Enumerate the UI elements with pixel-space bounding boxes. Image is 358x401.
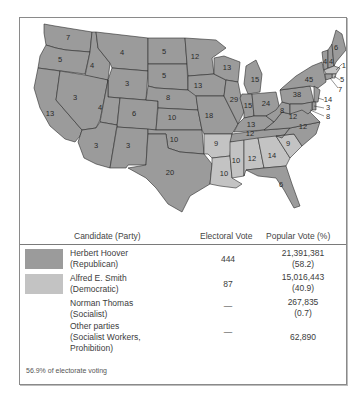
popular-percent: (58.2) (260, 259, 346, 270)
state-co (117, 98, 158, 130)
label-pa: 38 (293, 90, 301, 99)
label-ne: 8 (166, 93, 170, 102)
turnout-footnote: 56.9% of electorate voting (26, 367, 107, 374)
label-ut: 4 (98, 103, 102, 112)
label-ri: 5 (340, 75, 344, 84)
results-legend: Candidate (Party) Electoral Vote Popular… (20, 227, 346, 357)
popular-vote: 21,391,381 (260, 248, 346, 259)
label-ky: 13 (247, 120, 255, 129)
state-sd (148, 64, 188, 90)
label-or: 5 (58, 55, 62, 64)
label-al: 12 (248, 154, 256, 163)
label-mi: 15 (251, 75, 259, 84)
label-wa: 7 (66, 33, 70, 42)
democratic-swatch (25, 274, 63, 294)
label-tx: 20 (166, 168, 174, 177)
legend-row-thomas: Norman Thomas (Socialist) — 267,835 (0.7… (20, 297, 346, 321)
label-oh: 24 (262, 99, 270, 108)
label-ct: 7 (338, 85, 342, 94)
candidate-name: Alfred E. Smith (70, 273, 127, 284)
state-ny (280, 62, 326, 90)
candidate-name: Herbert Hoover (70, 248, 128, 259)
label-id: 4 (90, 61, 94, 70)
header-electoral: Electoral Vote (200, 231, 252, 241)
popular-vote: 267,835 (260, 297, 346, 308)
popular-percent: (0.7) (260, 308, 346, 319)
label-ia: 13 (194, 81, 202, 90)
state-nd (148, 38, 187, 64)
candidate-party-cont: Prohibition) (70, 343, 141, 354)
label-nh: 4 (329, 57, 333, 66)
label-nc: 12 (299, 122, 307, 131)
label-az: 3 (94, 141, 98, 150)
label-il: 29 (230, 95, 238, 104)
popular-vote: 15,016,443 (260, 272, 346, 283)
label-ca: 13 (46, 109, 54, 118)
candidate-party: (Republican) (70, 259, 128, 270)
electoral-vote: — (198, 301, 258, 312)
republican-swatch (25, 249, 63, 269)
us-electoral-map: 7 5 13 4 3 4 3 4 6 3 3 5 5 8 10 10 20 12… (20, 18, 346, 218)
header-popular: Popular Vote (%) (266, 231, 330, 241)
label-nd: 5 (162, 47, 166, 56)
candidate-name: Norman Thomas (70, 298, 133, 309)
label-tn: 12 (246, 129, 254, 138)
legend-row-smith: Alfred E. Smith (Democratic) 87 15,016,4… (20, 272, 346, 297)
label-wi: 13 (223, 63, 231, 72)
electoral-vote: — (198, 327, 258, 338)
popular-percent: (40.9) (260, 283, 346, 294)
label-nv: 3 (73, 93, 77, 102)
label-me: 6 (334, 43, 338, 52)
label-la: 10 (220, 169, 228, 178)
label-mt: 4 (120, 48, 124, 57)
legend-header: Candidate (Party) Electoral Vote Popular… (20, 227, 346, 245)
candidate-party: (Democratic) (70, 284, 127, 295)
state-ks (156, 108, 202, 130)
label-sd: 5 (162, 71, 166, 80)
label-de: 3 (326, 103, 330, 112)
label-fl: 6 (279, 180, 283, 189)
label-wv: 8 (280, 106, 284, 115)
electoral-vote: 444 (198, 254, 258, 265)
label-mo: 18 (205, 111, 213, 120)
label-ks: 10 (168, 113, 176, 122)
label-md: 8 (326, 112, 330, 121)
candidate-party: (Socialist Workers, (70, 332, 141, 343)
label-ga: 14 (268, 151, 276, 160)
label-va: 12 (289, 112, 297, 121)
label-ma: 18 (342, 61, 346, 70)
candidate-name: Other parties (70, 321, 141, 332)
state-fl (246, 166, 300, 208)
label-ar: 9 (214, 139, 218, 148)
label-wy: 3 (125, 79, 129, 88)
label-vt: 4 (323, 57, 327, 66)
state-nj (314, 86, 320, 102)
label-sc: 9 (286, 139, 290, 148)
label-ok: 10 (170, 135, 178, 144)
electoral-vote: 87 (198, 279, 258, 290)
label-ny: 45 (305, 75, 313, 84)
label-nm: 3 (126, 141, 130, 150)
legend-row-other: Other parties (Socialist Workers, Prohib… (20, 321, 346, 357)
label-in: 15 (244, 101, 252, 110)
header-candidate: Candidate (Party) (74, 231, 141, 241)
label-ms: 10 (232, 156, 240, 165)
legend-row-hoover: Herbert Hoover (Republican) 444 21,391,3… (20, 245, 346, 272)
candidate-party: (Socialist) (70, 309, 133, 320)
label-co: 6 (132, 109, 136, 118)
election-map-figure: 7 5 13 4 3 4 3 4 6 3 3 5 5 8 10 10 20 12… (19, 17, 347, 385)
popular-vote: 62,890 (260, 332, 346, 343)
label-mn: 12 (191, 52, 199, 61)
